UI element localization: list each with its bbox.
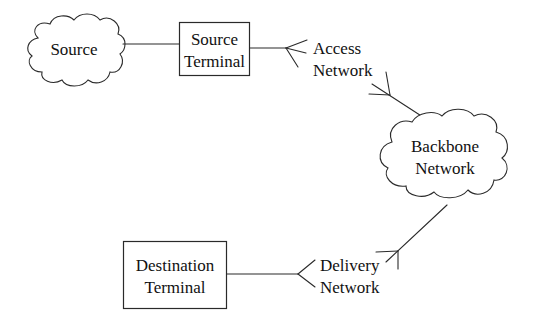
edge-line <box>386 205 447 262</box>
access-network-label-line2: Network <box>313 61 373 80</box>
source-terminal-node: Source Terminal <box>180 23 250 76</box>
backbone-network-label-line2: Network <box>415 159 475 178</box>
fork-prong-left <box>376 251 398 252</box>
fork-prong-up <box>386 72 390 95</box>
source-cloud: Source <box>28 14 125 86</box>
delivery-network-label-line1: Delivery <box>320 256 380 275</box>
destination-terminal-box <box>124 242 227 309</box>
edge-backbone-to-delivery-network <box>376 205 447 269</box>
fork-prong-upper <box>286 40 307 48</box>
source-label: Source <box>50 40 97 59</box>
source-terminal-label-line1: Source <box>191 30 238 49</box>
fork-prong-upper <box>298 260 315 274</box>
network-diagram: Source Source Terminal Access Network Ba… <box>0 0 536 325</box>
edge-line <box>372 84 426 119</box>
source-terminal-label-line2: Terminal <box>184 52 245 71</box>
edge-source-terminal-to-access-network <box>250 40 307 67</box>
delivery-network-label-line2: Network <box>320 278 380 297</box>
edge-destination-terminal-to-delivery-network <box>227 260 315 287</box>
delivery-network-node: Delivery Network <box>320 256 380 297</box>
access-network-label-line1: Access <box>313 39 361 58</box>
access-network-node: Access Network <box>313 39 373 80</box>
destination-terminal-node: Destination Terminal <box>124 242 227 309</box>
fork-prong-lower <box>298 274 315 287</box>
edge-access-network-to-backbone <box>369 72 426 119</box>
destination-terminal-label-line1: Destination <box>136 256 215 275</box>
destination-terminal-label-line2: Terminal <box>144 278 205 297</box>
backbone-network-cloud: Backbone Network <box>380 109 507 198</box>
backbone-network-label-line1: Backbone <box>411 137 479 156</box>
